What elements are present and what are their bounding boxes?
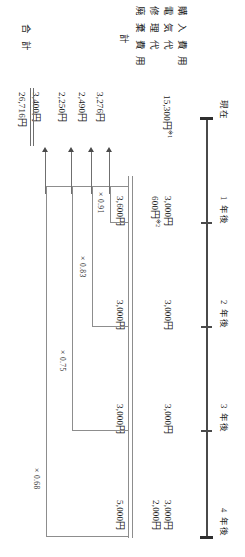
- bracket-year3-vertical: [72, 186, 73, 430]
- total-rule-inner: [33, 88, 34, 146]
- cell-power-year2: 3,000円: [163, 300, 172, 330]
- bracket-year2-vertical: [92, 186, 93, 326]
- footnote-marker-2: ※2: [155, 219, 161, 227]
- timeline-label-present: 現在: [220, 100, 229, 120]
- pv-arrow-stem-year2: [91, 152, 92, 194]
- total-label: 合 計: [21, 24, 31, 53]
- pv-arrow-head-year2: [88, 147, 94, 152]
- bracket-year4-bottom: [46, 536, 128, 537]
- bracket-year2-bottom: [92, 326, 128, 327]
- axis-tick-year1: [201, 222, 212, 224]
- footnote-marker-1: ※1: [167, 130, 173, 138]
- pv-arrow-head-year3: [68, 147, 74, 152]
- cell-power-year3: 3,000円: [163, 404, 172, 434]
- timeline-label-year2: 2 年後: [220, 300, 229, 329]
- pv-arrow-stem-year3: [71, 152, 72, 194]
- present-value-year1: 3,276円: [95, 92, 104, 122]
- cell-subtotal-year4: 5,000円: [115, 500, 124, 530]
- present-value-year2: 2,490円: [77, 92, 86, 122]
- axis-cap-present: [200, 117, 213, 120]
- total-value: 26,716円: [17, 92, 26, 127]
- axis-tick-year2: [201, 326, 212, 328]
- pv-arrow-head-year4: [42, 147, 48, 152]
- axis-tick-year3: [201, 430, 212, 432]
- row-label-subtotal: 計: [119, 34, 129, 45]
- lifecycle-cost-diagram: 購 入 費 用 電 気 代 修 理 代 廃 棄 費 用 計 合 計 現在 1 年…: [0, 0, 245, 557]
- bracket-year4-top: [46, 186, 128, 187]
- cell-disposal-year4: 2,000円: [151, 500, 160, 530]
- cell-purchase-now: 15,300円※1: [162, 95, 172, 138]
- timeline-axis: [206, 118, 208, 538]
- cell-purchase-now-value: 15,300円: [162, 95, 172, 130]
- bracket-year1-bottom: [110, 222, 128, 223]
- timeline-label-year1: 1 年後: [220, 196, 229, 225]
- discount-factor-year4: × 0.68: [33, 468, 41, 490]
- cell-power-year4: 3,000円: [163, 500, 172, 530]
- subtotal-column-rule-right: [132, 176, 133, 538]
- row-label-power: 電 気 代: [163, 6, 173, 52]
- bracket-year1-vertical: [110, 186, 111, 222]
- subtotal-column-rule-left: [128, 176, 129, 538]
- row-label-purchase: 購 入 費 用: [177, 6, 187, 69]
- cell-repair-year1: 600円※2: [150, 196, 160, 227]
- discount-factor-year2: × 0.83: [79, 256, 87, 278]
- pv-arrow-stem-year1: [109, 152, 110, 194]
- row-label-repair: 修 理 代: [149, 6, 159, 52]
- timeline-label-year3: 3 年後: [220, 404, 229, 433]
- present-value-year3: 2,250円: [57, 92, 66, 122]
- timeline-label-year4: 4 年後: [220, 508, 229, 537]
- cell-repair-year1-value: 600円: [150, 196, 160, 219]
- bracket-year3-bottom: [72, 430, 128, 431]
- pv-arrow-stem-year4: [45, 152, 46, 194]
- row-label-disposal: 廃 棄 費 用: [135, 6, 145, 69]
- bracket-year4-vertical: [46, 186, 47, 536]
- discount-factor-year1: × 0.91: [97, 192, 105, 214]
- pv-arrow-head-year1: [106, 147, 112, 152]
- total-rule-outer: [30, 88, 31, 146]
- axis-cap-year4: [200, 536, 213, 539]
- cell-power-year1: 3,000円: [163, 196, 172, 226]
- discount-factor-year3: × 0.75: [59, 350, 67, 372]
